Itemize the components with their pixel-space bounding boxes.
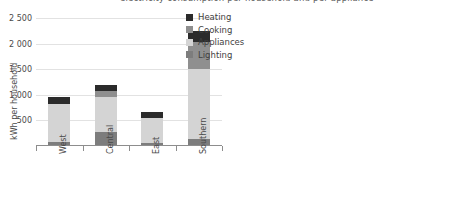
- x-axis-labels-household: WestCentralEastSouthern: [36, 146, 222, 216]
- x-axis-category-label: Southern: [199, 118, 208, 154]
- chart-legend: HeatingCookingAppliancesLighting: [186, 13, 244, 59]
- y-axis-tick-label: 2 500: [9, 14, 32, 23]
- legend-item-lighting[interactable]: Lighting: [186, 51, 244, 60]
- legend-label: Cooking: [198, 26, 232, 35]
- x-axis-category-label: West: [59, 134, 68, 154]
- legend-swatch-icon: [186, 26, 193, 33]
- y-axis-tick-label: 500: [17, 116, 32, 125]
- legend-item-cooking[interactable]: Cooking: [186, 26, 244, 35]
- y-axis-title-household: kWh per household: [10, 63, 19, 140]
- legend-swatch-icon: [186, 51, 193, 58]
- legend-item-heating[interactable]: Heating: [186, 13, 244, 22]
- x-axis-category-label: East: [152, 137, 161, 154]
- legend-label: Appliances: [198, 38, 244, 47]
- x-axis-category-label: Central: [106, 125, 115, 154]
- chart-panel-appliance: kWh per appliance 5001 0001 5002 0002 50…: [245, 0, 461, 221]
- x-tick-mark: [222, 146, 223, 151]
- chart-panel-household: kWh per household 5001 0001 5002 0002 50…: [0, 0, 245, 221]
- legend-label: Heating: [198, 13, 231, 22]
- legend-label: Lighting: [198, 51, 232, 60]
- bar-segment-heating: [48, 97, 70, 104]
- bar-slot: [129, 18, 176, 146]
- legend-swatch-icon: [186, 39, 193, 46]
- figure-container: kWh per household 5001 0001 5002 0002 50…: [0, 0, 461, 221]
- y-axis-tick-label: 1 500: [9, 65, 32, 74]
- y-axis-tick-label: 1 000: [9, 90, 32, 99]
- y-axis-tick-label: 2 000: [9, 39, 32, 48]
- bar-slot: [36, 18, 83, 146]
- legend-item-appliances[interactable]: Appliances: [186, 38, 244, 47]
- legend-swatch-icon: [186, 14, 193, 21]
